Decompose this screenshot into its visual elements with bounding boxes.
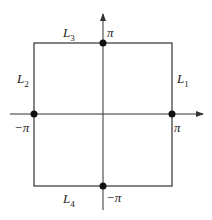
point-right xyxy=(169,111,176,118)
point-label-top: π xyxy=(107,26,114,39)
point-label-bottom: −π xyxy=(106,191,121,204)
edge-label-l1: L1 xyxy=(177,72,189,89)
edge-label-l4: L4 xyxy=(63,192,75,209)
point-left xyxy=(31,111,38,118)
edge-label-l2: L2 xyxy=(17,72,29,89)
point-bottom xyxy=(100,183,107,190)
point-label-right: π xyxy=(174,121,181,134)
point-top xyxy=(100,40,107,47)
point-label-left: −π xyxy=(14,121,29,134)
edge-label-l3: L3 xyxy=(63,26,75,43)
diagram-canvas xyxy=(0,0,212,220)
